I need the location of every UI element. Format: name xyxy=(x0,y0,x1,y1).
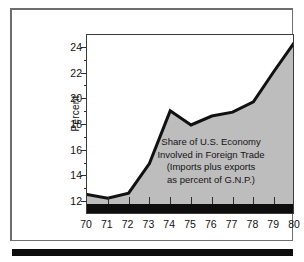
x-axis-tick xyxy=(274,197,275,204)
chart-annotation: Share of U.S. EconomyInvolved in Foreign… xyxy=(136,136,286,186)
area-series-svg xyxy=(87,35,294,214)
x-axis-tick xyxy=(170,197,171,204)
area-chart: Percent 12141618202224 70717273747576777… xyxy=(50,34,295,246)
scanned-figure-page: Percent 12141618202224 70717273747576777… xyxy=(0,0,304,262)
plot-area xyxy=(86,34,294,214)
annotation-line: as percent of G.N.P.) xyxy=(136,174,286,187)
x-axis-tick-label: 78 xyxy=(247,218,259,230)
x-axis-tick xyxy=(253,197,254,204)
x-axis-tick-label: 79 xyxy=(267,218,279,230)
scan-edge-bar xyxy=(12,249,293,256)
annotation-line: Share of U.S. Economy xyxy=(136,136,286,149)
x-axis-tick xyxy=(129,197,130,204)
x-axis-tick xyxy=(149,197,150,204)
baseline-black-band xyxy=(87,204,293,213)
annotation-line: (Imports plus exports xyxy=(136,161,286,174)
x-axis-tick-label: 71 xyxy=(101,218,113,230)
area-fill-path xyxy=(87,41,294,214)
y-axis-tick-labels: 12141618202224 xyxy=(58,34,82,214)
x-axis-tick xyxy=(212,197,213,204)
x-axis-tick-label: 74 xyxy=(163,218,175,230)
x-axis-tick-labels: 7071727374757677787980 xyxy=(86,218,294,234)
annotation-line: Involved in Foreign Trade xyxy=(136,149,286,162)
x-axis-tick-label: 75 xyxy=(184,218,196,230)
x-axis-tick xyxy=(108,197,109,204)
x-axis-tick-label: 72 xyxy=(122,218,134,230)
x-axis-tick-label: 80 xyxy=(288,218,300,230)
x-axis-tick xyxy=(233,197,234,204)
x-axis-tick-label: 73 xyxy=(143,218,155,230)
x-axis-tick-label: 76 xyxy=(205,218,217,230)
x-axis-tick-label: 70 xyxy=(80,218,92,230)
x-axis-tick xyxy=(191,197,192,204)
x-axis-tick-label: 77 xyxy=(226,218,238,230)
figure-border-frame: Percent 12141618202224 70717273747576777… xyxy=(10,8,293,241)
